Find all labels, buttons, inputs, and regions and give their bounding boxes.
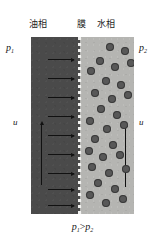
water-droplet (88, 163, 96, 171)
oil-phase-label: 油相 (29, 19, 47, 30)
flow-arrow-right (48, 59, 74, 60)
water-droplet (121, 47, 129, 55)
pressure-p2-subscript: 2 (144, 48, 147, 54)
velocity-arrow-up-oil (41, 125, 42, 185)
velocity-u-left-label: u (13, 117, 18, 127)
water-droplet (99, 153, 107, 161)
flow-arrow-right (48, 173, 74, 174)
pressure-relation-caption: p1>p2 (0, 221, 165, 233)
water-droplet (119, 195, 127, 203)
water-droplet (97, 105, 105, 113)
water-droplet (124, 91, 132, 99)
pressure-p2-label: p2 (139, 42, 147, 54)
water-droplet (91, 135, 99, 143)
water-droplet (86, 191, 94, 199)
water-droplet (85, 147, 93, 155)
water-droplet (102, 199, 110, 207)
flow-arrow-right (48, 97, 74, 98)
membrane-dashed-line (78, 37, 81, 214)
water-droplet (111, 185, 119, 193)
water-droplet (106, 43, 114, 51)
flow-arrow-right (48, 78, 74, 79)
water-droplet (87, 67, 95, 75)
velocity-arrow-up-water (125, 127, 126, 187)
diagram-panel (31, 37, 134, 214)
pressure-p1-subscript: 1 (11, 48, 14, 54)
water-droplet (103, 125, 111, 133)
flow-arrow-right (48, 189, 74, 190)
flow-arrow-right (48, 205, 74, 206)
water-droplet (111, 63, 119, 71)
water-droplet (120, 121, 128, 129)
water-droplet (86, 117, 94, 125)
water-droplet (127, 59, 134, 67)
caption-p2-subscript: 2 (90, 227, 93, 233)
flow-arrow-right (48, 116, 74, 117)
flow-arrow-right (48, 135, 74, 136)
water-droplet (116, 151, 124, 159)
membrane-flow-diagram: 油相 膜 水相 p1 p2 u u p1>p2 (0, 0, 165, 245)
flow-arrow-right (48, 154, 74, 155)
water-droplet (108, 95, 116, 103)
water-droplet (109, 141, 117, 149)
water-droplet (96, 57, 104, 65)
water-droplet (113, 111, 121, 119)
velocity-u-right-label: u (139, 117, 144, 127)
water-phase-label: 水相 (97, 19, 115, 30)
water-droplet (91, 89, 99, 97)
water-droplet (102, 77, 110, 85)
water-droplet (105, 169, 113, 177)
water-droplet (122, 165, 130, 173)
membrane-label: 膜 (77, 19, 86, 30)
pressure-p1-label: p1 (6, 42, 14, 54)
water-droplet (117, 81, 125, 89)
water-droplet (94, 179, 102, 187)
